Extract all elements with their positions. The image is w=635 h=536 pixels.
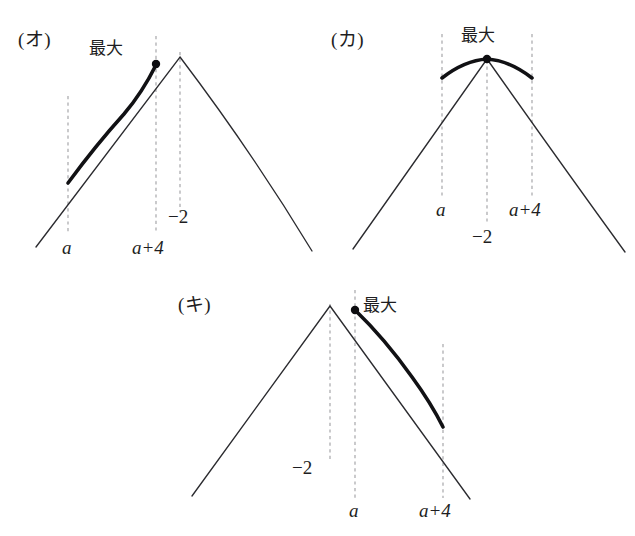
panel-o: (オ) 最大 −2 a a+4 (0, 0, 320, 268)
panel-label-o: (オ) (18, 30, 51, 49)
left-endpoint-label-ka: a (436, 200, 446, 219)
max-point-dot-ki (351, 306, 359, 314)
parabola-curve-ka (353, 59, 625, 252)
panel-label-ki: (キ) (178, 295, 211, 314)
max-label-ka: 最大 (461, 27, 495, 44)
panel-ki: (キ) 最大 −2 a a+4 (160, 268, 500, 536)
right-endpoint-label-ka: a+4 (509, 200, 541, 219)
parabola-highlight-o (68, 65, 156, 183)
right-endpoint-label-ki: a+4 (419, 501, 451, 520)
axis-label-ka: −2 (472, 227, 492, 246)
axis-label-o: −2 (168, 207, 188, 226)
panel-label-ka: (カ) (331, 30, 364, 49)
max-label-o: 最大 (89, 40, 123, 57)
axis-label-ki: −2 (292, 458, 312, 477)
right-endpoint-label-o: a+4 (132, 238, 164, 257)
parabola-highlight-ki (355, 310, 443, 427)
max-label-ki: 最大 (363, 297, 397, 314)
max-point-dot-o (152, 60, 160, 68)
max-point-dot-ka (483, 55, 491, 63)
panel-ka: (カ) 最大 a a+4 −2 (320, 0, 635, 268)
left-endpoint-label-ki: a (349, 501, 359, 520)
figure-canvas: (オ) 最大 −2 a a+4 (カ) 最大 a a+4 −2 (0, 0, 635, 536)
left-endpoint-label-o: a (62, 238, 72, 257)
